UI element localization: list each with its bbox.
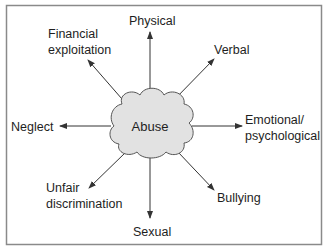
label-financial-line1: Financial xyxy=(48,27,98,41)
center-label: Abuse xyxy=(132,119,169,134)
label-financial-line2: exploitation xyxy=(48,43,111,57)
label-discrimination-line1: Unfair xyxy=(46,181,79,195)
label-sexual: Sexual xyxy=(133,225,171,239)
label-emotional-line2: psychological xyxy=(245,129,320,143)
abuse-diagram: Abuse Physical Verbal Emotional/ psychol… xyxy=(0,0,326,250)
label-physical: Physical xyxy=(129,14,176,28)
label-discrimination-line2: discrimination xyxy=(46,197,122,211)
label-emotional-line1: Emotional/ xyxy=(245,113,305,127)
label-neglect: Neglect xyxy=(11,120,54,134)
label-bullying: Bullying xyxy=(217,191,261,205)
label-verbal: Verbal xyxy=(214,43,249,57)
